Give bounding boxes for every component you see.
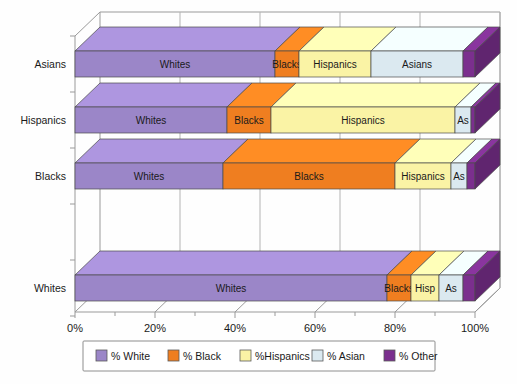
x-tick-label-100: 100% [461, 322, 489, 334]
bar-segment: Whites [75, 27, 300, 77]
segment-label: Whites [216, 283, 247, 294]
segment-top-face [75, 27, 300, 51]
legend-label: %Hispanics [255, 350, 310, 362]
legend-label: % White [111, 350, 150, 362]
category-label-blacks: Blacks [35, 170, 66, 182]
bars-group: WhitesBlacksHispanicsAsiansWhitesBlacksH… [75, 27, 500, 301]
stacked-bar-chart: WhitesBlacksHispanicsAsiansWhitesBlacksH… [0, 0, 517, 384]
legend-item[interactable]: % Black [168, 350, 222, 362]
bar-segment: Hispanics [271, 83, 480, 133]
segment-label: Hispanics [401, 171, 444, 182]
x-tick-labels: 0%20%40%60%80%100% [67, 322, 489, 334]
segment-label: Blacks [234, 115, 263, 126]
segment-label: Blacks [272, 59, 301, 70]
x-tick-label-60: 60% [304, 322, 326, 334]
category-label-hispanics: Hispanics [20, 114, 66, 126]
segment-top-face [223, 139, 420, 163]
legend-item[interactable]: %Hispanics [240, 350, 310, 362]
segment-label: Whites [160, 59, 191, 70]
legend-swatch [168, 350, 179, 361]
segment-label: Hispanics [341, 115, 384, 126]
segment-top-face [271, 83, 480, 107]
segment-label: As [445, 283, 457, 294]
legend-swatch [312, 350, 323, 361]
legend-item[interactable]: % White [96, 350, 150, 362]
chart-canvas: WhitesBlacksHispanicsAsiansWhitesBlacksH… [0, 0, 517, 384]
segment-top-face [75, 251, 412, 275]
segment-front-face [467, 163, 475, 189]
y-axis-ticks [70, 36, 75, 316]
segment-top-face [75, 83, 252, 107]
x-tick-label-80: 80% [384, 322, 406, 334]
x-tick-label-0: 0% [67, 322, 83, 334]
segment-label: Blacks [384, 283, 413, 294]
legend-label: % Other [399, 350, 438, 362]
segment-label: Blacks [294, 171, 323, 182]
bar-segment: Whites [75, 139, 248, 189]
legend-swatch [96, 350, 107, 361]
segment-label: Hispanics [313, 59, 356, 70]
bar-segment: Blacks [223, 139, 420, 189]
segment-top-face [75, 139, 248, 163]
legend-label: % Asian [327, 350, 365, 362]
legend-label: % Black [183, 350, 222, 362]
x-tick-label-40: 40% [224, 322, 246, 334]
legend-swatch [240, 350, 251, 361]
segment-front-face [471, 107, 475, 133]
segment-label: Whites [134, 171, 165, 182]
segment-front-face [463, 51, 475, 77]
legend-swatch [384, 350, 395, 361]
legend: % White% Black%Hispanics% Asian% Other [83, 341, 438, 371]
bar-segment: Whites [75, 251, 412, 301]
bar-segment: Whites [75, 83, 252, 133]
segment-label: Hisp [415, 283, 435, 294]
segment-label: Asians [402, 59, 432, 70]
category-label-asians: Asians [34, 58, 66, 70]
segment-label: As [457, 115, 469, 126]
segment-label: As [453, 171, 465, 182]
legend-item[interactable]: % Asian [312, 350, 365, 362]
segment-label: Whites [136, 115, 167, 126]
x-tick-label-20: 20% [144, 322, 166, 334]
category-labels: AsiansHispanicsBlacksWhites [20, 58, 66, 294]
category-label-whites: Whites [34, 282, 66, 294]
segment-front-face [463, 275, 475, 301]
legend-item[interactable]: % Other [384, 350, 438, 362]
